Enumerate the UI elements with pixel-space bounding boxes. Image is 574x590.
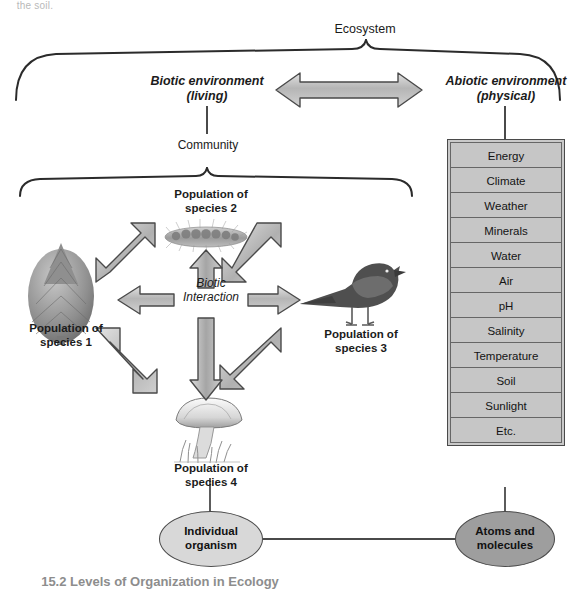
abiotic-factor-cell: Air	[450, 267, 562, 293]
arrow-species1-species2	[96, 223, 155, 282]
biotic-interaction-label: Biotic Interaction	[163, 276, 259, 304]
abiotic-environment-label: Abiotic environment (physical)	[440, 74, 572, 104]
abiotic-factor-cell: Water	[450, 242, 562, 268]
atoms-and-molecules-node: Atoms and molecules	[455, 511, 555, 567]
individual-organism-node: Individual organism	[159, 511, 263, 567]
community-label: Community	[152, 138, 264, 152]
abiotic-factors-list: EnergyClimateWeatherMineralsWaterAirpHSa…	[447, 139, 565, 446]
mushroom-icon	[174, 398, 242, 463]
biotic-abiotic-double-arrow	[276, 73, 422, 107]
population-species-4-label: Population of species 4	[152, 462, 270, 489]
abiotic-factor-cell: Salinity	[450, 317, 562, 343]
abiotic-factor-cell: Energy	[450, 142, 562, 168]
population-species-2-label: Population of species 2	[156, 188, 266, 215]
figure-canvas: the soil.	[0, 0, 574, 590]
abiotic-factor-cell: Weather	[450, 192, 562, 218]
cropped-header-text: the soil.	[0, 0, 70, 11]
arrow-center-to-species4	[190, 318, 222, 400]
abiotic-factor-cell: pH	[450, 292, 562, 318]
population-species-1-label: Population of species 1	[14, 322, 118, 349]
abiotic-factor-cell: Soil	[450, 367, 562, 393]
caterpillar-icon	[165, 219, 247, 253]
abiotic-factor-cell: Etc.	[450, 417, 562, 443]
abiotic-factor-cell: Temperature	[450, 342, 562, 368]
bird-icon	[300, 263, 406, 325]
biotic-environment-label: Biotic environment (living)	[142, 74, 272, 104]
abiotic-factor-cell: Sunlight	[450, 392, 562, 418]
arrow-species2-species3	[222, 223, 281, 282]
abiotic-factor-cell: Climate	[450, 167, 562, 193]
ecosystem-label: Ecosystem	[305, 22, 425, 37]
arrow-species4-species3	[220, 328, 281, 389]
abiotic-factor-cell: Minerals	[450, 217, 562, 243]
figure-caption-cropped: 15.2 Levels of Organization in Ecology	[0, 574, 320, 590]
population-species-3-label: Population of species 3	[306, 328, 416, 355]
